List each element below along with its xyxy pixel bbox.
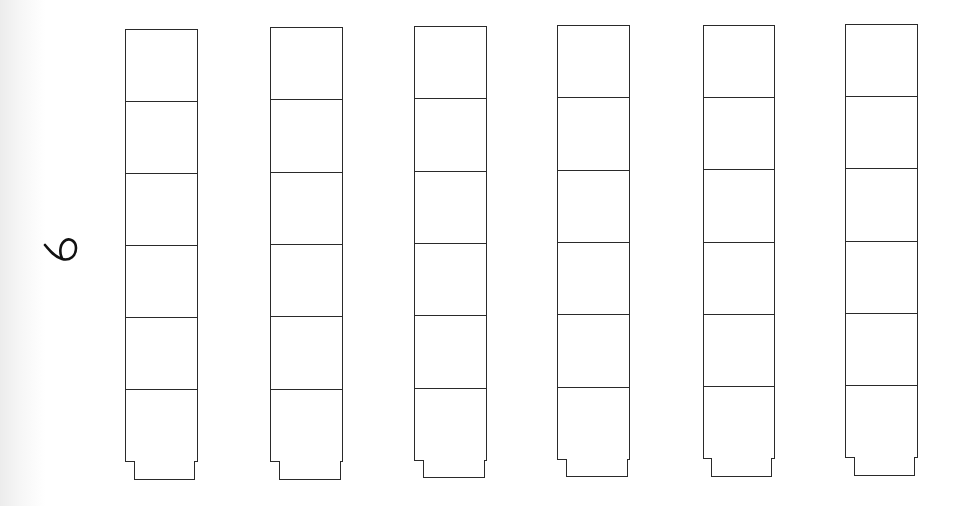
cube [558,387,629,459]
cube [415,171,486,243]
cube-stack [845,24,918,458]
cube [271,99,342,171]
tower-base [134,461,195,480]
cube [126,389,197,461]
cube [415,315,486,387]
cube [558,26,629,97]
cube [846,241,917,313]
tower-base [711,458,772,477]
cube [558,170,629,242]
cube-tower [414,26,487,478]
cube [271,244,342,316]
cube [271,172,342,244]
cube [558,97,629,169]
cube [846,385,917,457]
cube [846,25,917,96]
cube [271,389,342,461]
handwritten-number-six: 6 [40,232,80,292]
cube [415,388,486,460]
cube [704,314,774,386]
cube-stack [414,26,487,461]
tower-base [854,457,915,476]
cube [704,26,774,97]
handwritten-six-glyph [40,232,80,292]
cube-tower [703,25,775,477]
cube [415,243,486,315]
tower-base [279,461,341,480]
cube-tower [557,25,630,477]
cube [271,316,342,388]
cube [846,313,917,385]
cube-tower [845,24,918,476]
cube-stack [557,25,630,460]
cube-stack [270,27,343,462]
cube [126,30,197,101]
cube [415,27,486,98]
cube [126,173,197,245]
cube [704,242,774,314]
cube [558,314,629,386]
cube-stack [703,25,775,459]
cube [271,28,342,99]
cube [415,98,486,170]
cube [126,245,197,317]
cube-tower [270,27,343,480]
cube-stack [125,29,198,462]
cube [126,101,197,173]
cube [558,242,629,314]
cube-tower [125,29,198,480]
cube [846,168,917,240]
tower-base [566,459,628,477]
cube [704,169,774,241]
cube [704,386,774,458]
cube [846,96,917,168]
cube [126,317,197,389]
cube [704,97,774,169]
tower-base [423,460,485,478]
